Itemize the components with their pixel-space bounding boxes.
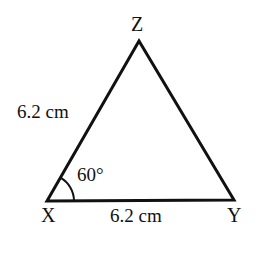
angle-measure-label-x: 60° bbox=[77, 165, 104, 184]
vertex-label-z: Z bbox=[131, 14, 143, 34]
diagram-canvas: Z X Y 6.2 cm 6.2 cm 60° bbox=[0, 0, 260, 259]
side-length-label-xz: 6.2 cm bbox=[17, 102, 69, 121]
vertex-label-x: X bbox=[41, 205, 55, 225]
triangle-xyz-outline bbox=[47, 41, 234, 201]
angle-arc-at-x bbox=[60, 178, 74, 201]
side-length-label-xy: 6.2 cm bbox=[110, 206, 162, 225]
vertex-label-y: Y bbox=[227, 205, 241, 225]
